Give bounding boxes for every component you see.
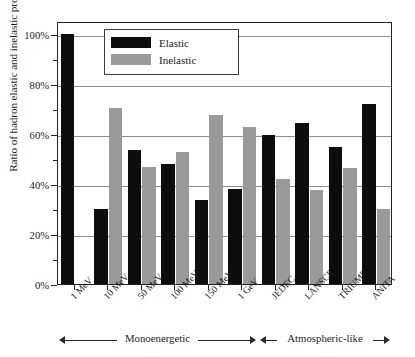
annotation-arrow-right-icon xyxy=(250,336,256,344)
annotation-label: Atmospheric-like xyxy=(260,332,390,344)
annotation-label: Monoenergetic xyxy=(59,332,256,344)
bar-chart-figure: Ratio of hadron elastic and inelastic pr… xyxy=(0,0,415,357)
annotation-bracket: Atmospheric-like xyxy=(260,333,390,349)
annotation-bracket: Monoenergetic xyxy=(59,333,256,349)
annotation-line-right xyxy=(373,340,384,341)
x-axis-ticks xyxy=(0,0,415,357)
annotation-arrow-right-icon xyxy=(384,336,390,344)
annotation-line-right xyxy=(198,340,250,341)
